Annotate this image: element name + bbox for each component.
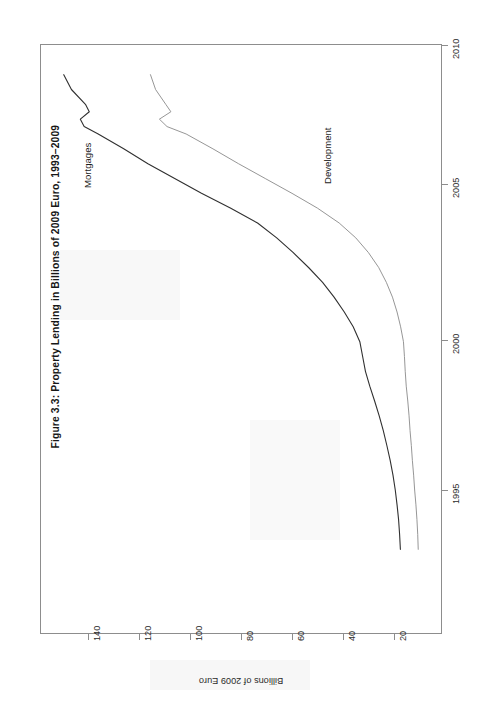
value-tick-mark xyxy=(241,634,242,640)
time-tick-label: 2005 xyxy=(451,178,461,198)
series-label-mortgages: Mortgages xyxy=(82,143,93,188)
time-tick-mark xyxy=(442,340,448,341)
value-tick-mark xyxy=(292,634,293,640)
value-tick-label: 140 xyxy=(92,626,102,641)
series-line-mortgages xyxy=(64,75,401,550)
value-tick-mark xyxy=(190,634,191,640)
value-tick-label: 40 xyxy=(347,631,357,641)
scanned-figure-page: Figure 3.3: Property Lending in Billions… xyxy=(0,0,482,712)
value-tick-label: 80 xyxy=(245,631,255,641)
time-tick-label: 2000 xyxy=(451,334,461,354)
time-tick-label: 1995 xyxy=(451,484,461,504)
chart-plot-area xyxy=(40,44,442,634)
value-tick-label: 20 xyxy=(398,631,408,641)
value-tick-label: 100 xyxy=(194,626,204,641)
value-tick-label: 120 xyxy=(143,626,153,641)
series-line-development xyxy=(150,75,418,550)
value-tick-label: 60 xyxy=(296,631,306,641)
value-tick-mark xyxy=(139,634,140,640)
value-tick-mark xyxy=(343,634,344,640)
time-tick-mark xyxy=(442,184,448,185)
time-tick-mark xyxy=(442,45,448,46)
value-axis-title: Billions of 2009 Euro xyxy=(0,676,482,686)
series-label-development: Development xyxy=(322,127,333,184)
time-tick-label: 2010 xyxy=(451,39,461,59)
time-tick-mark xyxy=(442,490,448,491)
value-tick-mark xyxy=(394,634,395,640)
value-tick-mark xyxy=(88,634,89,640)
